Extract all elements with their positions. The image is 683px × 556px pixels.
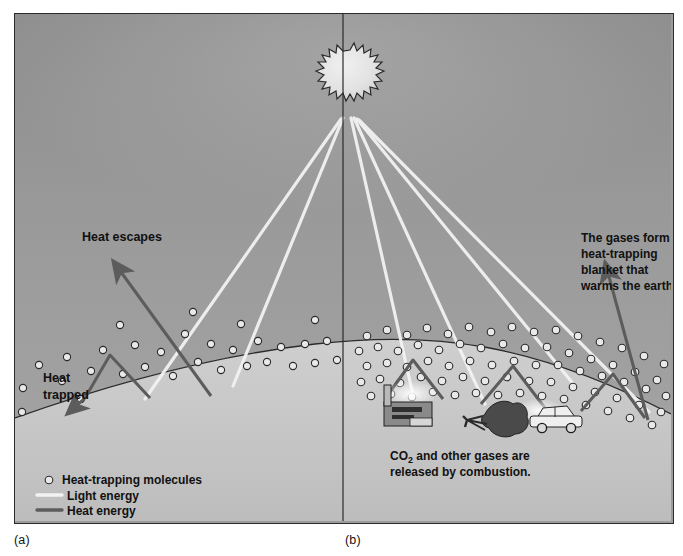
molecule [63,353,70,360]
molecule [237,320,244,327]
figure-frame: Heat escapes Heat trapped The gases form… [14,13,674,524]
molecule [87,367,94,374]
molecule [499,340,507,348]
molecule [554,361,562,369]
figure-root: Heat escapes Heat trapped The gases form… [0,0,683,556]
molecule [194,358,201,365]
molecule [481,377,489,385]
molecule [488,361,496,369]
molecule [157,348,164,355]
molecule [576,367,584,375]
molecule [357,378,365,386]
molecule-circle-icon [45,476,53,484]
molecule [374,343,382,351]
molecule [435,346,443,354]
molecule [653,376,661,384]
molecule [229,346,236,353]
molecule [189,308,196,315]
molecule [516,389,524,397]
molecule [289,362,296,369]
molecule [662,392,670,400]
legend-label-heat-energy: Heat energy [67,504,136,518]
molecule [604,407,612,415]
molecule [444,330,452,338]
molecule [438,377,446,385]
molecule [207,340,214,347]
molecule [660,360,668,368]
molecule [254,337,261,344]
legend-label-light-energy: Light energy [67,489,139,503]
molecule [510,357,518,365]
molecule [367,392,375,400]
co2-label: CO [390,449,408,463]
molecule [569,383,577,391]
molecule [19,384,26,391]
molecule [311,316,318,323]
molecule [363,332,371,340]
molecule [141,363,148,370]
molecule [355,347,363,355]
molecule [277,343,284,350]
molecule [626,414,634,422]
molecule [311,359,318,366]
annotation-heat-trapped-line1: Heat [43,371,71,385]
molecule [487,328,495,336]
molecule [451,391,459,399]
annotation-blanket-line2: heat-trapping [581,247,658,261]
molecule [35,361,42,368]
annotation-blanket-line1: The gases form a [581,231,671,245]
molecule [131,341,138,348]
annotation-heat-escapes: Heat escapes [82,230,162,244]
molecule [323,337,330,344]
molecule [609,361,617,369]
annotation-blanket-line3: blanket that [581,263,648,277]
molecule [547,378,555,386]
molecule [596,338,604,346]
molecule [424,357,432,365]
molecule [217,366,224,373]
combustion-line1-rest: and other gases are [413,449,530,463]
molecule [169,372,176,379]
molecule [552,326,560,334]
molecule [301,340,308,347]
annotation-blanket-line4: warms the earth. [580,279,671,293]
greenhouse-effect-diagram: Heat escapes Heat trapped The gases form… [15,14,671,521]
molecule [598,372,606,380]
legend-label-molecules: Heat-trapping molecules [62,473,202,487]
molecule [560,395,568,403]
molecule [494,391,502,399]
molecule [648,421,656,429]
molecule [508,323,516,331]
molecule [99,346,106,353]
molecule [423,324,431,332]
molecule [543,343,551,351]
molecule [657,408,665,416]
molecule [333,356,340,363]
molecule [532,361,540,369]
molecule [640,352,648,360]
molecule [530,328,538,336]
molecule [618,344,626,352]
molecule [383,359,391,367]
molecule [376,375,384,383]
molecule [613,394,621,402]
molecule [403,331,411,339]
molecule [363,362,371,370]
molecule [477,344,485,352]
molecule [116,321,123,328]
molecule [181,330,188,337]
molecule [394,347,402,355]
annotation-heat-trapped-line2: trapped [43,388,89,402]
molecule [642,385,650,393]
molecule [465,323,473,331]
annotation-combustion-line2: released by combustion. [390,465,531,479]
molecule [466,357,474,365]
molecule [472,389,480,397]
molecule [243,362,250,369]
molecule [456,340,464,348]
molecule [383,326,391,334]
molecule [18,408,25,415]
molecule [414,341,422,349]
molecule [521,344,529,352]
molecule [263,358,270,365]
